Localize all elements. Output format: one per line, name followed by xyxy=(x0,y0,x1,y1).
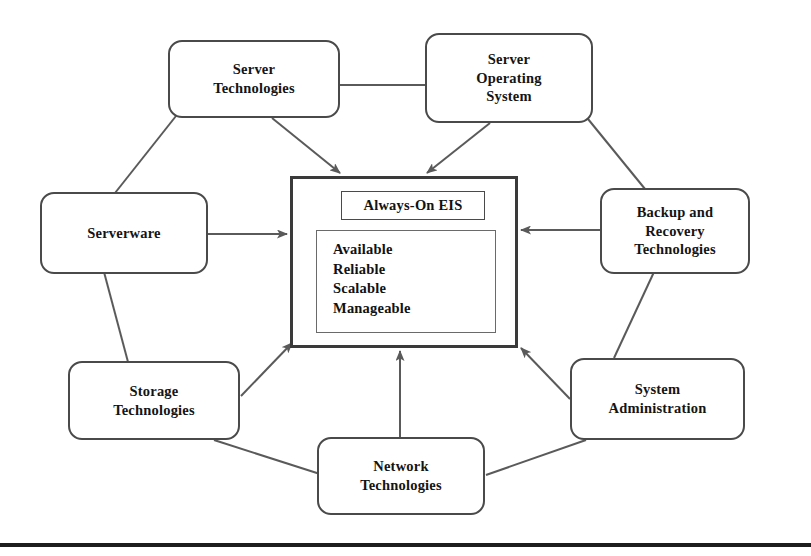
connector-network-technologies-to-system-administration xyxy=(486,440,586,475)
center-attribute-item: Available xyxy=(333,240,495,260)
node-serverware[interactable]: Serverware xyxy=(40,192,208,274)
node-server-operating-system[interactable]: Server Operating System xyxy=(425,33,593,123)
diagram-canvas: Server Technologies Server Operating Sys… xyxy=(0,0,811,556)
node-network-technologies-label: Network Technologies xyxy=(354,457,448,495)
connector-backup-to-system-administration xyxy=(614,272,654,358)
node-server-technologies[interactable]: Server Technologies xyxy=(168,40,340,118)
bottom-horizontal-rule xyxy=(0,543,811,547)
connector-serverware-to-storage-technologies xyxy=(104,272,128,362)
connector-server-technologies-to-serverware xyxy=(115,116,176,193)
center-attribute-item: Scalable xyxy=(333,279,495,299)
arrow-system-administration-to-center xyxy=(521,348,570,399)
arrow-storage-technologies-to-center xyxy=(241,343,292,396)
node-system-administration[interactable]: System Administration xyxy=(570,358,745,440)
node-backup-and-recovery-technologies[interactable]: Backup and Recovery Technologies xyxy=(600,188,750,274)
node-storage-technologies-label: Storage Technologies xyxy=(107,382,201,420)
node-storage-technologies[interactable]: Storage Technologies xyxy=(68,361,240,440)
center-attribute-item: Reliable xyxy=(333,260,495,280)
arrow-server-operating-system-to-center xyxy=(427,123,490,173)
center-title-box: Always-On EIS xyxy=(341,191,485,220)
connector-storage-technologies-to-network-technologies xyxy=(214,440,320,474)
arrow-server-technologies-to-center xyxy=(272,118,340,173)
node-serverware-label: Serverware xyxy=(81,224,166,243)
node-server-technologies-label: Server Technologies xyxy=(207,60,301,98)
node-server-operating-system-label: Server Operating System xyxy=(470,50,547,107)
center-attribute-item: Manageable xyxy=(333,299,495,319)
node-system-administration-label: System Administration xyxy=(603,380,713,418)
connector-server-operating-system-to-backup xyxy=(588,119,645,189)
center-always-on-eis-box[interactable]: Always-On EIS Available Reliable Scalabl… xyxy=(290,176,518,348)
node-backup-and-recovery-technologies-label: Backup and Recovery Technologies xyxy=(628,203,722,260)
center-title-label: Always-On EIS xyxy=(364,197,463,214)
center-attributes-box: Available Reliable Scalable Manageable xyxy=(316,230,496,333)
node-network-technologies[interactable]: Network Technologies xyxy=(317,437,485,515)
